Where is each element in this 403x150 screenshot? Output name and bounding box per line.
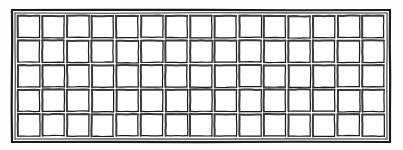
lattice-cell[interactable]	[42, 65, 64, 87]
lattice-cell[interactable]	[288, 89, 310, 111]
lattice-cell[interactable]	[264, 89, 286, 111]
lattice-cell[interactable]	[92, 90, 114, 112]
lattice-cell[interactable]	[166, 114, 188, 136]
lattice-cell[interactable]	[92, 65, 114, 87]
lattice-cell[interactable]	[338, 16, 360, 38]
lattice-cell[interactable]	[215, 65, 237, 87]
lattice-cell[interactable]	[264, 16, 286, 38]
lattice-cell[interactable]	[116, 65, 138, 87]
lattice-cell[interactable]	[239, 90, 261, 112]
lattice-cell[interactable]	[239, 114, 261, 136]
cell-face	[166, 90, 188, 112]
lattice-cell[interactable]	[116, 41, 138, 63]
cell-face	[288, 115, 310, 137]
cell-face	[42, 90, 64, 112]
cell-face	[362, 16, 383, 38]
cell-face	[116, 65, 138, 87]
lattice-cell[interactable]	[215, 16, 237, 38]
lattice-cell[interactable]	[264, 40, 286, 62]
lattice-cell[interactable]	[289, 65, 311, 87]
lattice-cell[interactable]	[190, 65, 212, 87]
lattice-cell[interactable]	[141, 65, 163, 87]
lattice-cell[interactable]	[141, 90, 163, 112]
cell-face	[338, 41, 360, 63]
lattice-cell[interactable]	[166, 16, 188, 38]
lattice-cell[interactable]	[165, 40, 187, 62]
lattice-cell[interactable]	[42, 114, 64, 136]
lattice-cell[interactable]	[18, 114, 40, 136]
lattice-cell[interactable]	[165, 65, 187, 87]
cell-face	[338, 90, 360, 112]
lattice-cell[interactable]	[141, 114, 163, 136]
lattice-cell[interactable]	[337, 41, 359, 63]
frame-edge	[12, 10, 13, 142]
lattice-cell[interactable]	[67, 65, 89, 87]
lattice-cell[interactable]	[42, 40, 64, 62]
lattice-cell[interactable]	[288, 16, 310, 38]
lattice-cell[interactable]	[313, 65, 335, 87]
lattice-cell[interactable]	[67, 114, 89, 136]
lattice-cell[interactable]	[239, 65, 261, 87]
lattice-cell[interactable]	[116, 16, 138, 38]
lattice-cell[interactable]	[264, 114, 286, 136]
lattice-cell[interactable]	[141, 16, 163, 38]
lattice-cell[interactable]	[288, 114, 310, 136]
lattice-cell[interactable]	[42, 16, 64, 38]
lattice-cell[interactable]	[18, 90, 40, 112]
lattice-cell[interactable]	[67, 16, 89, 38]
lattice-cell[interactable]	[337, 65, 359, 87]
lattice-cell[interactable]	[288, 41, 310, 63]
cell-face	[362, 115, 384, 137]
lattice-cell[interactable]	[18, 16, 40, 38]
lattice-cell[interactable]	[190, 89, 212, 111]
lattice-cell[interactable]	[190, 40, 212, 62]
cell-face	[313, 16, 335, 38]
lattice-drawing	[0, 0, 403, 150]
lattice-cell[interactable]	[18, 40, 40, 62]
lattice-cell[interactable]	[117, 90, 139, 112]
lattice-cell[interactable]	[141, 40, 163, 62]
cell-face	[141, 41, 163, 63]
cell-face	[338, 65, 360, 86]
cell-face	[313, 114, 334, 136]
lattice-cell[interactable]	[362, 65, 384, 87]
lattice-cell[interactable]	[18, 65, 40, 87]
lattice-cell[interactable]	[116, 114, 138, 136]
lattice-cell[interactable]	[362, 16, 384, 38]
cell-face	[42, 16, 64, 38]
lattice-cell[interactable]	[214, 114, 236, 136]
lattice-cell[interactable]	[362, 114, 384, 136]
cell-face	[288, 41, 310, 63]
lattice-cell[interactable]	[214, 40, 236, 62]
lattice-cell[interactable]	[91, 40, 113, 62]
cell-face	[313, 65, 335, 87]
lattice-cell[interactable]	[92, 16, 114, 38]
lattice-cell[interactable]	[239, 16, 261, 38]
lattice-cell[interactable]	[362, 40, 384, 62]
cell-face	[18, 40, 39, 62]
cell-face	[289, 65, 311, 87]
lattice-cell[interactable]	[337, 114, 359, 136]
lattice-cell[interactable]	[190, 16, 212, 38]
cell-face	[18, 114, 40, 136]
lattice-cell[interactable]	[239, 40, 261, 62]
lattice-cell[interactable]	[67, 41, 89, 63]
lattice-cell[interactable]	[338, 90, 360, 112]
cell-face	[67, 90, 89, 111]
lattice-cell[interactable]	[42, 89, 64, 111]
lattice-cell[interactable]	[313, 40, 335, 62]
cell-face	[288, 16, 310, 38]
lattice-cell[interactable]	[313, 16, 335, 38]
cell-face	[117, 41, 139, 63]
cell-face	[141, 90, 163, 112]
lattice-cell[interactable]	[166, 90, 188, 112]
lattice-cell[interactable]	[67, 90, 89, 112]
lattice-cell[interactable]	[215, 90, 237, 112]
lattice-cell[interactable]	[190, 114, 212, 136]
lattice-cell[interactable]	[91, 114, 113, 136]
lattice-cell[interactable]	[362, 90, 384, 112]
cell-face	[42, 40, 63, 62]
lattice-cell[interactable]	[313, 114, 335, 136]
lattice-cell[interactable]	[313, 90, 335, 112]
lattice-cell[interactable]	[264, 65, 286, 87]
